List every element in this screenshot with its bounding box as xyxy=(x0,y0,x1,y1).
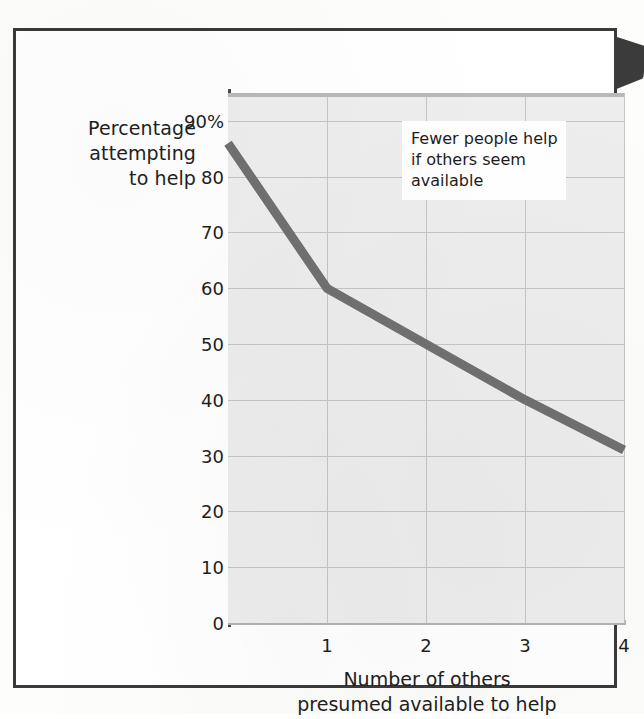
y-axis-tick-labels: 0102030405060708090% xyxy=(166,31,224,719)
x-axis-caption-line-2: presumed available to help xyxy=(228,692,626,717)
x-tick-label: 2 xyxy=(406,635,446,656)
y-tick-label: 70 xyxy=(166,222,224,243)
y-tick-label: 20 xyxy=(166,501,224,522)
y-tick-label: 60 xyxy=(166,278,224,299)
annotation-callout: Fewer people help if others seem availab… xyxy=(402,121,566,200)
plot-area: Fewer people help if others seem availab… xyxy=(228,93,624,623)
x-tick-label: 3 xyxy=(505,635,545,656)
y-tick-label: 80 xyxy=(166,166,224,187)
x-tick-label: 1 xyxy=(307,635,347,656)
figure-frame: Percentage attempting to help 0102030405… xyxy=(13,28,617,688)
y-tick-label: 90% xyxy=(166,110,224,131)
y-tick-label: 0 xyxy=(166,613,224,634)
x-tick-label: 4 xyxy=(604,635,644,656)
page-edge-tab-icon xyxy=(614,36,644,90)
gridline-vertical xyxy=(624,93,625,623)
y-tick-label: 10 xyxy=(166,557,224,578)
y-tick-label: 40 xyxy=(166,389,224,410)
annotation-line-1: Fewer people help xyxy=(411,128,557,149)
annotation-line-2: if others seem xyxy=(411,149,557,170)
annotation-line-3: available xyxy=(411,170,557,191)
x-axis-caption: Number of others presumed available to h… xyxy=(228,667,626,717)
x-axis-tick-labels: 1234 xyxy=(16,635,644,661)
y-tick-label: 30 xyxy=(166,445,224,466)
x-axis-caption-line-1: Number of others xyxy=(228,667,626,692)
y-tick-label: 50 xyxy=(166,334,224,355)
